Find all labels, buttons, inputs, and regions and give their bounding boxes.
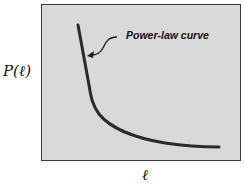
x-axis-label: ℓ bbox=[142, 166, 148, 184]
power-law-annotation: Power-law curve bbox=[126, 29, 209, 41]
power-law-curve bbox=[78, 25, 219, 147]
arrowhead-icon bbox=[87, 51, 94, 58]
annotation-arrow-icon bbox=[91, 37, 117, 55]
y-axis-label: P(ℓ) bbox=[3, 62, 31, 80]
